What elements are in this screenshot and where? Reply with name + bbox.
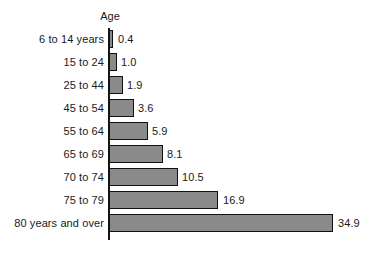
plot-area: 6 to 14 years 0.4 15 to 24 1.0 25 to 44 … xyxy=(0,28,377,243)
value-label: 5.9 xyxy=(152,120,168,142)
value-label: 1.9 xyxy=(127,74,143,96)
table-row: 15 to 24 1.0 xyxy=(0,51,377,73)
table-row: 55 to 64 5.9 xyxy=(0,120,377,142)
bar-segment xyxy=(109,99,134,117)
category-label: 15 to 24 xyxy=(0,51,104,73)
category-label: 75 to 79 xyxy=(0,189,104,211)
bar-segment xyxy=(109,145,163,163)
bar-segment xyxy=(109,30,113,48)
bar-segment xyxy=(109,168,178,186)
value-label: 3.6 xyxy=(138,97,154,119)
category-label: 70 to 74 xyxy=(0,166,104,188)
value-label: 10.5 xyxy=(182,166,204,188)
bar-segment xyxy=(109,53,117,71)
value-label: 8.1 xyxy=(167,143,183,165)
table-row: 25 to 44 1.9 xyxy=(0,74,377,96)
table-row: 6 to 14 years 0.4 xyxy=(0,28,377,50)
table-row: 75 to 79 16.9 xyxy=(0,189,377,211)
bar-segment xyxy=(109,76,123,94)
value-label: 34.9 xyxy=(338,212,360,234)
table-row: 65 to 69 8.1 xyxy=(0,143,377,165)
axis-title-age: Age xyxy=(0,10,120,22)
value-label: 16.9 xyxy=(223,189,245,211)
table-row: 80 years and over 34.9 xyxy=(0,212,377,234)
value-label: 1.0 xyxy=(121,51,137,73)
bar-segment xyxy=(109,214,333,232)
bar-segment xyxy=(109,122,148,140)
category-label: 45 to 54 xyxy=(0,97,104,119)
category-label: 55 to 64 xyxy=(0,120,104,142)
category-label: 80 years and over xyxy=(0,212,104,234)
category-label: 6 to 14 years xyxy=(0,28,104,50)
bar-segment xyxy=(109,191,218,209)
value-label: 0.4 xyxy=(118,28,134,50)
bar-chart: Age 6 to 14 years 0.4 15 to 24 1.0 25 to… xyxy=(0,0,377,256)
table-row: 70 to 74 10.5 xyxy=(0,166,377,188)
category-label: 65 to 69 xyxy=(0,143,104,165)
table-row: 45 to 54 3.6 xyxy=(0,97,377,119)
category-label: 25 to 44 xyxy=(0,74,104,96)
